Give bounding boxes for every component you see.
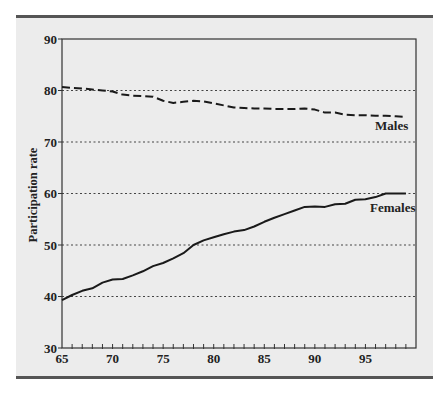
x-tick-label: 80 bbox=[207, 351, 220, 366]
x-tick-label: 85 bbox=[258, 351, 272, 366]
y-tick-label: 90 bbox=[44, 32, 57, 47]
y-tick-label: 50 bbox=[44, 238, 57, 253]
x-tick-label: 65 bbox=[56, 351, 70, 366]
tick-labels: 3040506070809065707580859095 bbox=[44, 32, 372, 367]
y-tick-label: 70 bbox=[44, 135, 57, 150]
y-axis-title: Participation rate bbox=[26, 147, 40, 242]
series-line-females bbox=[62, 194, 406, 301]
y-tick-label: 60 bbox=[44, 186, 57, 201]
x-tick-label: 75 bbox=[157, 351, 171, 366]
x-tick-label: 90 bbox=[308, 351, 321, 366]
series-label-males: Males bbox=[375, 118, 408, 133]
x-tick-label: 95 bbox=[359, 351, 373, 366]
line-chart: 3040506070809065707580859095 Participati… bbox=[0, 0, 447, 402]
series-label-females: Females bbox=[370, 200, 415, 215]
y-tick-label: 80 bbox=[44, 83, 57, 98]
x-tick-label: 70 bbox=[106, 351, 119, 366]
gridlines bbox=[62, 91, 416, 297]
y-tick-label: 40 bbox=[44, 289, 57, 304]
series-line-males bbox=[62, 87, 406, 117]
